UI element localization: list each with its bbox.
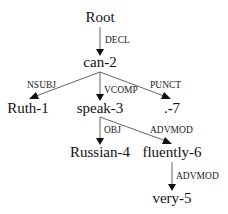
edge-advmod-very: ADVMOD bbox=[168, 162, 219, 191]
edge-label-punct: PUNCT bbox=[150, 80, 181, 90]
arrowhead-icon bbox=[29, 92, 39, 99]
edge-label-vcomp: VCOMP bbox=[104, 85, 138, 95]
node-punct-7: .-7 bbox=[164, 100, 181, 116]
edge-label-nsubj: NSUBJ bbox=[27, 80, 56, 90]
edge-label-obj: OBJ bbox=[104, 125, 121, 135]
node-root: Root bbox=[85, 9, 115, 25]
node-very-5: very-5 bbox=[152, 190, 191, 206]
node-speak-3: speak-3 bbox=[77, 100, 124, 116]
edge-obj: OBJ bbox=[96, 117, 121, 145]
dependency-tree-diagram: DECL NSUBJ VCOMP PUNCT OBJ ADVMOD ADVMOD… bbox=[0, 0, 228, 214]
node-ruth-1: Ruth-1 bbox=[7, 100, 49, 116]
arrowhead-icon bbox=[161, 92, 171, 99]
node-can-2: can-2 bbox=[83, 54, 116, 70]
edge-label-advmod: ADVMOD bbox=[150, 125, 193, 135]
node-russian-4: Russian-4 bbox=[70, 144, 131, 160]
edge-label-advmod-2: ADVMOD bbox=[176, 171, 219, 181]
edge-nsubj: NSUBJ bbox=[27, 72, 100, 99]
edge-vcomp: VCOMP bbox=[96, 72, 138, 101]
edge-label-decl: DECL bbox=[105, 35, 130, 45]
node-fluently-6: fluently-6 bbox=[142, 144, 202, 160]
arrowhead-icon bbox=[162, 137, 172, 144]
edge-decl: DECL bbox=[96, 27, 130, 56]
